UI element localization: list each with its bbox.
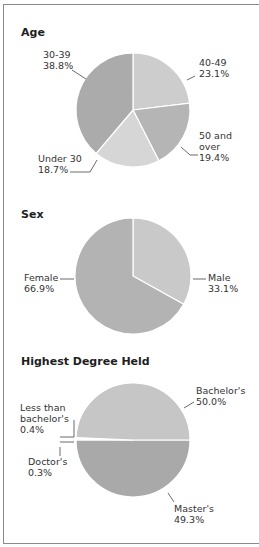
label-doctors: Doctor's 0.3%: [28, 456, 67, 478]
label-male: Male 33.1%: [208, 272, 238, 294]
label-bachelors: Bachelor's 50.0%: [196, 385, 245, 407]
pie-slice: [76, 440, 190, 497]
label-masters: Master's 49.3%: [174, 503, 214, 525]
label-under-30: Under 30 18.7%: [38, 153, 82, 175]
label-50-and-over: 50 and over 19.4%: [199, 130, 232, 163]
pie-slice: [133, 53, 190, 110]
label-female: Female 66.9%: [24, 272, 58, 294]
label-40-49: 40-49 23.1%: [199, 57, 229, 79]
pie-slice: [76, 383, 190, 440]
degree-pie: [76, 383, 190, 497]
label-30-39: 30-39 38.8%: [43, 49, 73, 71]
label-less-than-bachelors: Less than bachelor's 0.4%: [20, 402, 69, 435]
age-pie: [76, 53, 190, 167]
sex-pie: [75, 218, 191, 334]
